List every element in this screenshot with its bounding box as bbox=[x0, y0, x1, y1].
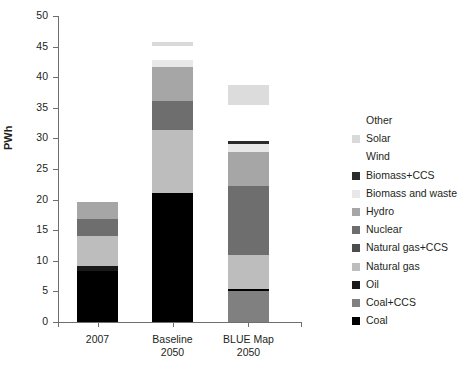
legend-item-natural-gas[interactable]: Natural gas bbox=[352, 258, 468, 276]
legend-item-natural-gas-ccs[interactable]: Natural gas+CCS bbox=[352, 239, 468, 257]
y-tick-label: 40 bbox=[0, 71, 48, 81]
y-tick-label: 45 bbox=[0, 41, 48, 51]
y-tick bbox=[53, 108, 58, 109]
legend-item-biomass-and-waste[interactable]: Biomass and waste bbox=[352, 185, 468, 203]
bar-segment-natural-gas[interactable] bbox=[228, 255, 269, 289]
legend-swatch-icon bbox=[352, 153, 360, 161]
bar-segment-hydro[interactable] bbox=[77, 202, 118, 219]
y-tick bbox=[53, 169, 58, 170]
legend-item-nuclear[interactable]: Nuclear bbox=[352, 221, 468, 239]
legend-swatch-icon bbox=[352, 208, 360, 216]
y-tick-label: 50 bbox=[0, 10, 48, 20]
legend-swatch-icon bbox=[352, 172, 360, 180]
legend-label: Oil bbox=[366, 276, 379, 293]
y-tick bbox=[53, 200, 58, 201]
legend-swatch-icon bbox=[352, 244, 360, 252]
bar-segment-coal[interactable] bbox=[152, 193, 193, 322]
y-tick-label: 5 bbox=[0, 285, 48, 295]
legend-item-hydro[interactable]: Hydro bbox=[352, 203, 468, 221]
y-tick-label: 25 bbox=[0, 163, 48, 173]
bar-segment-natural-gas[interactable] bbox=[152, 130, 193, 193]
y-tick-label: 20 bbox=[0, 194, 48, 204]
legend-label: Natural gas bbox=[366, 258, 420, 275]
bar-segment-nuclear[interactable] bbox=[77, 219, 118, 236]
legend-label: Coal+CCS bbox=[366, 294, 416, 311]
bar-segment-wind[interactable] bbox=[228, 85, 269, 105]
bar-segment-biomass-and-waste[interactable] bbox=[152, 60, 193, 67]
y-tick bbox=[53, 138, 58, 139]
legend-swatch-icon bbox=[352, 226, 360, 234]
bar-segment-hydro[interactable] bbox=[228, 152, 269, 186]
bar-segment-solar[interactable] bbox=[152, 42, 193, 46]
y-tick bbox=[53, 16, 58, 17]
y-tick bbox=[53, 230, 58, 231]
bar-2007[interactable] bbox=[77, 0, 118, 369]
legend-label: Coal bbox=[366, 312, 388, 329]
legend-swatch-icon bbox=[352, 190, 360, 198]
legend-item-wind[interactable]: Wind bbox=[352, 148, 468, 166]
legend-swatch-icon bbox=[352, 135, 360, 143]
chart-root: PWh 05101520253035404550 2007Baseline205… bbox=[0, 0, 468, 369]
bar-segment-coal[interactable] bbox=[77, 271, 118, 322]
legend-label: Hydro bbox=[366, 203, 394, 220]
plot-area: PWh 05101520253035404550 2007Baseline205… bbox=[0, 0, 340, 369]
legend-swatch-icon bbox=[352, 281, 360, 289]
x-tick bbox=[301, 322, 302, 327]
bar-segment-coal-ccs[interactable] bbox=[228, 291, 269, 322]
x-tick-label: BLUE Map2050 bbox=[204, 333, 294, 358]
legend-label: Solar bbox=[366, 130, 391, 147]
legend-swatch-icon bbox=[352, 317, 360, 325]
legend-label: Other bbox=[366, 112, 392, 129]
legend-swatch-icon bbox=[352, 299, 360, 307]
y-tick-label: 35 bbox=[0, 102, 48, 112]
legend-item-biomass-ccs[interactable]: Biomass+CCS bbox=[352, 167, 468, 185]
bar-blue-map-2050[interactable] bbox=[228, 0, 269, 369]
legend-item-coal-ccs[interactable]: Coal+CCS bbox=[352, 294, 468, 312]
chart-legend: OtherSolarWindBiomass+CCSBiomass and was… bbox=[352, 112, 468, 330]
bar-segment-natural-gas[interactable] bbox=[77, 236, 118, 267]
bar-baseline-2050[interactable] bbox=[152, 0, 193, 369]
y-tick bbox=[53, 261, 58, 262]
bar-segment-coal[interactable] bbox=[228, 289, 269, 291]
bar-segment-biomass-and-waste[interactable] bbox=[228, 144, 269, 152]
legend-item-coal[interactable]: Coal bbox=[352, 312, 468, 330]
legend-item-other[interactable]: Other bbox=[352, 112, 468, 130]
y-tick-label: 10 bbox=[0, 255, 48, 265]
y-tick bbox=[53, 47, 58, 48]
bar-segment-nuclear[interactable] bbox=[152, 101, 193, 130]
legend-label: Biomass and waste bbox=[366, 185, 457, 202]
legend-swatch-icon bbox=[352, 117, 360, 125]
legend-label: Nuclear bbox=[366, 221, 402, 238]
legend-label: Wind bbox=[366, 148, 390, 165]
y-tick-label: 0 bbox=[0, 316, 48, 326]
y-tick bbox=[53, 291, 58, 292]
bar-segment-nuclear[interactable] bbox=[228, 186, 269, 255]
y-tick-label: 15 bbox=[0, 224, 48, 234]
legend-item-oil[interactable]: Oil bbox=[352, 276, 468, 294]
x-tick bbox=[58, 322, 59, 327]
legend-item-solar[interactable]: Solar bbox=[352, 130, 468, 148]
legend-label: Natural gas+CCS bbox=[366, 239, 448, 256]
bar-segment-oil[interactable] bbox=[77, 266, 118, 271]
bar-segment-hydro[interactable] bbox=[152, 67, 193, 101]
legend-swatch-icon bbox=[352, 263, 360, 271]
bar-segment-biomass-ccs[interactable] bbox=[228, 141, 269, 143]
y-axis-spine bbox=[58, 16, 59, 323]
y-tick bbox=[53, 77, 58, 78]
y-tick-label: 30 bbox=[0, 132, 48, 142]
legend-label: Biomass+CCS bbox=[366, 167, 435, 184]
